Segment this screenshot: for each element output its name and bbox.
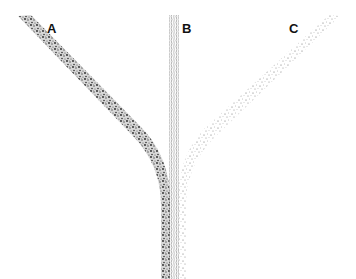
label-c: C	[289, 22, 298, 35]
channel-b	[169, 15, 179, 279]
label-b: B	[182, 22, 191, 35]
channel-c	[178, 15, 340, 279]
label-a: A	[47, 22, 56, 35]
channel-a	[18, 15, 170, 279]
channels-diagram	[0, 0, 356, 279]
